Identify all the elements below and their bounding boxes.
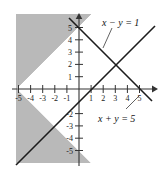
x-axis-label--1: -1 (64, 94, 71, 103)
x-axis-label-1: 1 (89, 94, 93, 103)
arrow-right-icon (152, 86, 158, 93)
y-axis-label--2: -2 (66, 110, 73, 119)
equation-label-line2: x + y = 5 (97, 113, 135, 124)
x-axis-label--2: -2 (51, 94, 58, 103)
x-axis-label-4: 4 (125, 94, 129, 103)
equation-label-line1: x − y = 1 (101, 17, 139, 28)
leader-line-1 (103, 28, 112, 48)
x-axis-label-3: 3 (113, 94, 117, 103)
y-axis-label-1: 1 (68, 73, 72, 82)
x-axis-label-5: 5 (138, 94, 142, 103)
y-axis-label--5: -5 (66, 147, 73, 156)
y-axis-label-2: 2 (68, 60, 72, 69)
x-axis-label--4: -4 (27, 94, 34, 103)
x-axis-label--5: -5 (15, 94, 22, 103)
y-axis-label-4: 4 (68, 36, 72, 45)
y-axis-label-5: 5 (68, 24, 72, 33)
coordinate-plane: -5 -4 -3 -2 -1 1 2 3 4 5 5 4 3 2 1 -2 -3… (0, 0, 161, 169)
graph-figure: -5 -4 -3 -2 -1 1 2 3 4 5 5 4 3 2 1 -2 -3… (0, 0, 161, 169)
y-axis-label--3: -3 (66, 122, 73, 131)
x-axis-label--3: -3 (39, 94, 46, 103)
y-axis-label-3: 3 (68, 48, 72, 57)
x-axis-label-2: 2 (101, 94, 105, 103)
y-axis-label--4: -4 (66, 134, 73, 143)
